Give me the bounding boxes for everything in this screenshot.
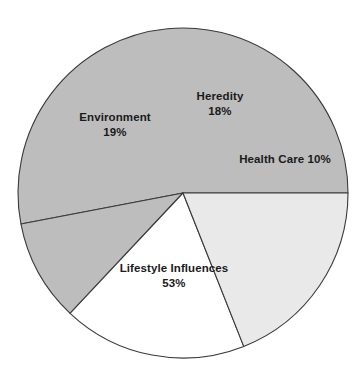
- pie-value-heredity: 18%: [208, 105, 231, 117]
- pie-label-health-care: Health Care 10%: [239, 153, 331, 165]
- pie-chart-svg: Lifestyle Influences53%Health Care 10%He…: [0, 0, 364, 381]
- pie-value-environment: 19%: [103, 126, 126, 138]
- pie-slices-group: [18, 28, 348, 358]
- pie-value-lifestyle-influences: 53%: [162, 277, 185, 289]
- pie-chart: Lifestyle Influences53%Health Care 10%He…: [0, 0, 364, 381]
- pie-label-heredity: Heredity: [197, 90, 244, 102]
- pie-label-lifestyle-influences: Lifestyle Influences: [120, 262, 229, 274]
- pie-label-environment: Environment: [79, 111, 150, 123]
